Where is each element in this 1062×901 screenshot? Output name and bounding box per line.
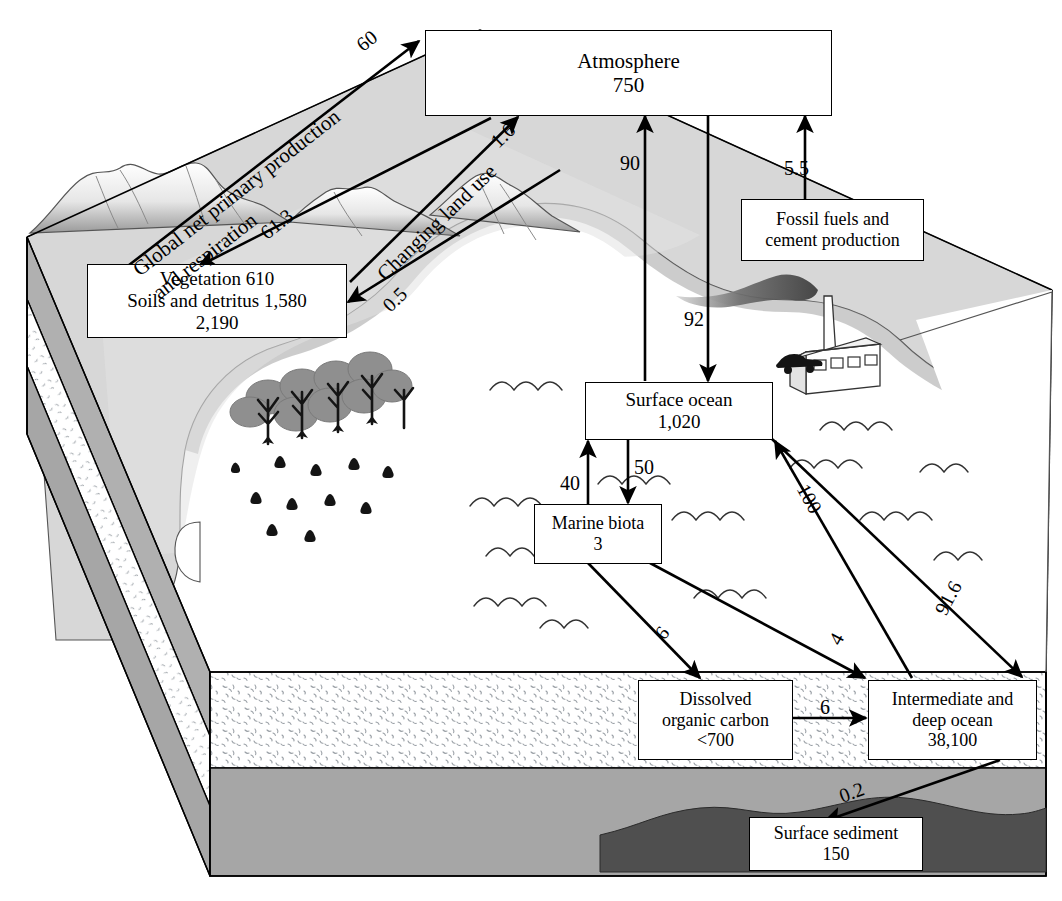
box-dissolved-organic-carbon[interactable]: Dissolved organic carbon <700 <box>638 680 793 760</box>
box-vegetation-soils[interactable]: Vegetation 610 Soils and detritus 1,580 … <box>87 264 347 338</box>
carbon-cycle-diagram: Atmosphere 750 Vegetation 610 Soils and … <box>0 0 1062 901</box>
fossil-fuels-line1: Fossil fuels and <box>776 209 889 230</box>
surface-ocean-label: Surface ocean <box>625 389 732 411</box>
doc-line1: Dissolved <box>680 689 752 710</box>
box-fossil-fuels[interactable]: Fossil fuels and cement production <box>741 199 924 261</box>
label-biota-to-surface-40: 40 <box>560 472 580 495</box>
fossil-fuels-line2: cement production <box>765 230 899 251</box>
surface-sediment-label: Surface sediment <box>774 823 898 844</box>
box-surface-sediment[interactable]: Surface sediment 150 <box>749 817 923 871</box>
box-atmosphere[interactable]: Atmosphere 750 <box>425 30 832 116</box>
surface-sediment-value: 150 <box>823 844 850 865</box>
doc-line2: organic carbon <box>662 710 769 731</box>
doc-line3: <700 <box>697 730 734 751</box>
surface-ocean-value: 1,020 <box>658 411 701 433</box>
atmosphere-value: 750 <box>613 73 645 97</box>
label-atm-to-ocean-92: 92 <box>684 308 704 331</box>
deep-ocean-line2: deep ocean <box>912 710 992 731</box>
label-fossil-to-atm-55: 5.5 <box>784 157 809 180</box>
label-ocean-to-atm-90: 90 <box>620 152 640 175</box>
box-intermediate-deep-ocean[interactable]: Intermediate and deep ocean 38,100 <box>868 680 1037 760</box>
marine-biota-value: 3 <box>594 534 603 555</box>
vegetation-line3: 2,190 <box>196 312 239 334</box>
deep-ocean-line1: Intermediate and <box>892 689 1013 710</box>
atmosphere-label: Atmosphere <box>577 49 680 73</box>
box-marine-biota[interactable]: Marine biota 3 <box>534 504 662 564</box>
label-doc-to-deep-6: 6 <box>820 696 830 719</box>
deep-ocean-line3: 38,100 <box>928 730 978 751</box>
box-surface-ocean[interactable]: Surface ocean 1,020 <box>585 382 773 440</box>
marine-biota-label: Marine biota <box>552 513 644 534</box>
flux-arrows-layer <box>0 0 1062 901</box>
arrow-surface-to-deep-916 <box>772 439 1022 677</box>
label-surface-to-biota-50: 50 <box>634 456 654 479</box>
